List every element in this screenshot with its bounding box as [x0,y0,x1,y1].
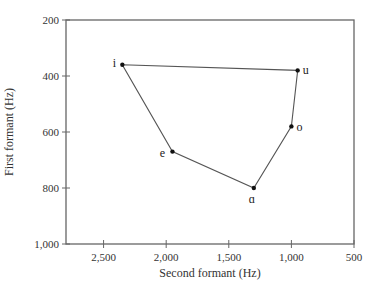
vowel-label: u [303,63,309,77]
vowel-point [252,186,256,190]
x-tick-label: 1,000 [279,251,304,263]
y-tick-label: 1,000 [34,238,59,250]
vowel-point [289,124,293,128]
vowel-point [295,68,299,72]
vowel-formant-chart: 2004006008001,0002,5002,0001,5001,000500… [0,0,378,292]
axes: 2004006008001,0002,5002,0001,5001,000500 [34,14,363,263]
vowel-point [170,149,174,153]
x-tick-label: 2,500 [91,251,116,263]
y-tick-label: 400 [43,70,60,82]
vowel-label: e [160,146,165,160]
vowel-label: ɑ [249,192,255,206]
y-tick-label: 800 [43,182,60,194]
vowel-space-outline [122,65,297,188]
y-tick-label: 200 [43,14,60,26]
y-tick-label: 600 [43,126,60,138]
plot-frame [66,20,354,244]
y-axis-title: First formant (Hz) [2,88,16,176]
x-axis-title: Second formant (Hz) [159,266,260,280]
x-tick-label: 500 [346,251,363,263]
x-tick-label: 1,500 [216,251,241,263]
vowel-point [120,63,124,67]
vowel-label: i [113,56,117,70]
x-tick-label: 2,000 [154,251,179,263]
vowel-label: o [296,120,302,134]
vowel-polygon: iuoɑe [113,56,309,206]
